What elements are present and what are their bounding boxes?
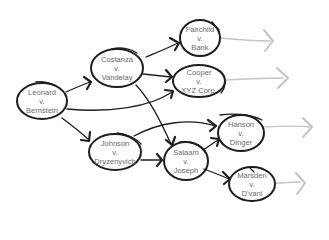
label-line-versus: v. (101, 64, 133, 73)
edge-leonard-cooper (67, 90, 173, 110)
label-line-plaintiff: Costanza (101, 55, 133, 64)
label-line-plaintiff: Leonard (26, 88, 58, 97)
label-line-versus: v. (94, 148, 135, 157)
label-line-versus: v. (26, 97, 58, 106)
label-line-defendant: Bernstein (26, 106, 58, 115)
label-line-defendant: XYZ Corp. (181, 86, 216, 95)
label-line-plaintiff: Hanson (228, 120, 254, 129)
label-hanson-dinger: Hanson v. Dinger (228, 120, 254, 147)
label-line-versus: v. (237, 180, 267, 189)
label-johnson-dryzenyvich: Johnson v. Dryzenyvich (94, 139, 135, 166)
label-leonard-bernstein: Leonard v. Bernstein (26, 88, 58, 115)
label-line-versus: v. (228, 129, 254, 138)
faded-arrow-fairchild (221, 30, 273, 51)
edge-leonard-johnson (62, 118, 90, 141)
label-line-plaintiff: Johnson (94, 139, 135, 148)
label-fairchild-bank: Fairchild v. Bank (186, 25, 215, 52)
faded-arrows (221, 30, 312, 194)
label-line-defendant: D'vani (237, 189, 267, 198)
label-line-versus: v. (186, 34, 215, 43)
edge-johnson-salaam (141, 154, 162, 166)
edge-leonard-costanza (66, 77, 91, 92)
label-line-versus: v. (181, 77, 216, 86)
edge-johnson-hanson (134, 120, 216, 136)
label-salaam-joseph: Salaam v. Joseph (173, 148, 199, 175)
faded-arrow-hanson (265, 118, 312, 137)
label-line-plaintiff: Marsden (237, 171, 267, 180)
edge-salaam-hanson (203, 138, 219, 150)
label-costanza-vandelay: Costanza v. Vandelay (101, 55, 133, 82)
label-line-defendant: Bank (186, 43, 215, 52)
faded-arrow-marsden (276, 173, 305, 194)
label-line-plaintiff: Salaam (173, 148, 199, 157)
label-line-defendant: Vandelay (101, 73, 133, 82)
edge-costanza-fairchild (146, 38, 179, 57)
label-cooper-xyz-corp: Cooper v. XYZ Corp. (181, 68, 216, 95)
faded-arrow-cooper (226, 68, 288, 88)
label-line-versus: v. (173, 157, 199, 166)
label-line-defendant: Dryzenyvich (94, 157, 135, 166)
edge-costanza-cooper (143, 70, 172, 82)
label-line-defendant: Joseph (173, 166, 199, 175)
label-line-plaintiff: Fairchild (186, 25, 215, 34)
edges (62, 38, 230, 184)
label-line-defendant: Dinger (228, 138, 254, 147)
edge-salaam-marsden (204, 169, 230, 184)
label-line-plaintiff: Cooper (181, 68, 216, 77)
label-marsden-dvani: Marsden v. D'vani (237, 171, 267, 198)
